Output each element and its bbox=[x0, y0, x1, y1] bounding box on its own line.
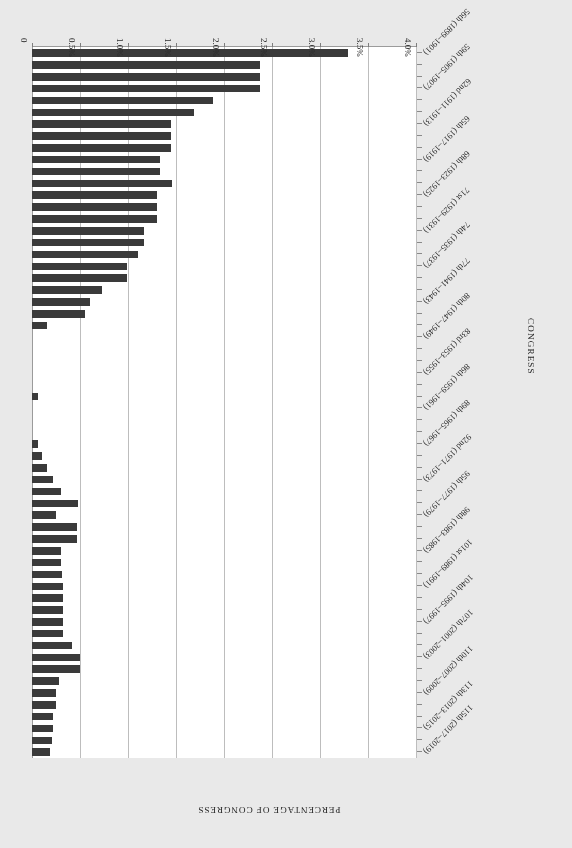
value-tick bbox=[176, 43, 177, 47]
bar-row bbox=[32, 438, 416, 450]
bar-row bbox=[32, 296, 416, 308]
bar-row bbox=[32, 485, 416, 497]
bar-row bbox=[32, 166, 416, 178]
bar-row bbox=[32, 734, 416, 746]
bar-row bbox=[32, 557, 416, 569]
bar-row bbox=[32, 628, 416, 640]
category-tick bbox=[417, 76, 422, 77]
bar bbox=[32, 488, 61, 496]
bar-row bbox=[32, 379, 416, 391]
value-tick bbox=[272, 43, 273, 47]
category-tick bbox=[417, 526, 422, 527]
category-tick bbox=[417, 621, 422, 622]
bar-row bbox=[32, 675, 416, 687]
bar-row bbox=[32, 308, 416, 320]
category-tick bbox=[417, 739, 422, 740]
category-tick bbox=[417, 680, 422, 681]
category-tick bbox=[417, 419, 422, 420]
category-tick bbox=[417, 431, 422, 432]
bar bbox=[32, 49, 348, 57]
bar-row bbox=[32, 663, 416, 675]
category-tick bbox=[417, 170, 422, 171]
bar-row bbox=[32, 106, 416, 118]
category-tick bbox=[417, 301, 422, 302]
bar-row bbox=[32, 687, 416, 699]
bar-row bbox=[32, 201, 416, 213]
bar bbox=[32, 109, 194, 117]
category-tick bbox=[417, 609, 422, 610]
bar bbox=[32, 642, 72, 650]
bar-row bbox=[32, 414, 416, 426]
value-tick-label: 3.5% bbox=[355, 38, 365, 57]
bar bbox=[32, 630, 63, 638]
category-tick bbox=[417, 455, 422, 456]
category-tick bbox=[417, 597, 422, 598]
category-tick bbox=[417, 751, 422, 752]
category-tick bbox=[417, 384, 422, 385]
bar-row bbox=[32, 272, 416, 284]
category-tick bbox=[417, 218, 422, 219]
bar bbox=[32, 322, 47, 330]
bar bbox=[32, 583, 63, 591]
category-tick bbox=[417, 704, 422, 705]
bar-row bbox=[32, 426, 416, 438]
bar-row bbox=[32, 474, 416, 486]
bar bbox=[32, 310, 85, 318]
category-tick bbox=[417, 206, 422, 207]
category-tick bbox=[417, 360, 422, 361]
bar bbox=[32, 594, 63, 602]
bar-row bbox=[32, 604, 416, 616]
bar-row bbox=[32, 225, 416, 237]
bar-row bbox=[32, 331, 416, 343]
bar-row bbox=[32, 568, 416, 580]
bar-row bbox=[32, 509, 416, 521]
category-tick bbox=[417, 324, 422, 325]
category-tick bbox=[417, 561, 422, 562]
bar-row bbox=[32, 83, 416, 95]
bar bbox=[32, 393, 38, 401]
category-tick bbox=[417, 242, 422, 243]
bar-row bbox=[32, 391, 416, 403]
value-tick-label: 2.0% bbox=[211, 38, 221, 57]
category-tick bbox=[417, 550, 422, 551]
bar bbox=[32, 737, 52, 745]
bar bbox=[32, 476, 53, 484]
bar bbox=[32, 97, 213, 105]
bar bbox=[32, 677, 59, 685]
bar-row bbox=[32, 521, 416, 533]
category-tick bbox=[417, 99, 422, 100]
category-tick bbox=[417, 502, 422, 503]
bar-row bbox=[32, 640, 416, 652]
category-tick bbox=[417, 336, 422, 337]
bar bbox=[32, 535, 77, 543]
category-tick bbox=[417, 668, 422, 669]
category-tick bbox=[417, 182, 422, 183]
bar bbox=[32, 748, 50, 756]
category-tick bbox=[417, 348, 422, 349]
category-tick bbox=[417, 230, 422, 231]
category-tick bbox=[417, 585, 422, 586]
bar bbox=[32, 689, 56, 697]
category-tick bbox=[417, 479, 422, 480]
category-tick bbox=[417, 443, 422, 444]
category-tick bbox=[417, 490, 422, 491]
bar-row bbox=[32, 722, 416, 734]
category-tick bbox=[417, 538, 422, 539]
category-tick bbox=[417, 313, 422, 314]
bar bbox=[32, 511, 56, 519]
bar-row bbox=[32, 355, 416, 367]
bar bbox=[32, 571, 62, 579]
bar bbox=[32, 251, 138, 259]
bar-row bbox=[32, 450, 416, 462]
bar-row bbox=[32, 545, 416, 557]
bar bbox=[32, 713, 53, 721]
category-tick bbox=[417, 265, 422, 266]
category-tick bbox=[417, 372, 422, 373]
bar bbox=[32, 132, 171, 140]
bar-row bbox=[32, 367, 416, 379]
category-tick bbox=[417, 727, 422, 728]
category-tick bbox=[417, 52, 422, 53]
value-tick bbox=[80, 43, 81, 47]
bar bbox=[32, 559, 61, 567]
bar-row bbox=[32, 533, 416, 545]
